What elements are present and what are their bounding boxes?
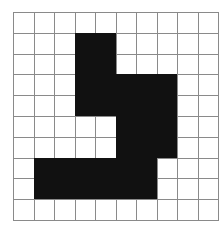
empty-cell [34, 12, 55, 33]
filled-cell [75, 54, 96, 75]
empty-cell [177, 12, 198, 33]
empty-cell [54, 199, 75, 220]
filled-cell [136, 178, 157, 199]
filled-cell [136, 116, 157, 137]
empty-cell [13, 33, 34, 54]
empty-cell [75, 116, 96, 137]
empty-cell [116, 54, 137, 75]
empty-cell [54, 33, 75, 54]
empty-cell [34, 199, 55, 220]
empty-cell [34, 33, 55, 54]
empty-cell [177, 54, 198, 75]
empty-cell [198, 74, 219, 95]
empty-cell [13, 158, 34, 179]
empty-cell [136, 33, 157, 54]
empty-cell [54, 54, 75, 75]
empty-cell [95, 12, 116, 33]
empty-cell [54, 74, 75, 95]
empty-cell [198, 54, 219, 75]
empty-cell [75, 137, 96, 158]
empty-cell [198, 199, 219, 220]
filled-cell [136, 158, 157, 179]
filled-cell [95, 33, 116, 54]
empty-cell [34, 116, 55, 137]
empty-cell [136, 12, 157, 33]
filled-cell [95, 178, 116, 199]
empty-cell [198, 158, 219, 179]
empty-cell [95, 199, 116, 220]
empty-cell [198, 178, 219, 199]
empty-cell [177, 116, 198, 137]
empty-cell [54, 137, 75, 158]
filled-cell [54, 158, 75, 179]
filled-cell [75, 95, 96, 116]
empty-cell [177, 199, 198, 220]
filled-cell [157, 95, 178, 116]
empty-cell [157, 12, 178, 33]
empty-cell [177, 74, 198, 95]
empty-cell [13, 137, 34, 158]
empty-cell [198, 12, 219, 33]
empty-cell [116, 33, 137, 54]
filled-cell [157, 116, 178, 137]
filled-cell [116, 158, 137, 179]
empty-cell [13, 54, 34, 75]
empty-cell [75, 199, 96, 220]
empty-cell [136, 199, 157, 220]
empty-cell [54, 12, 75, 33]
empty-cell [157, 33, 178, 54]
filled-cell [157, 137, 178, 158]
filled-cell [157, 74, 178, 95]
filled-cell [116, 178, 137, 199]
empty-cell [157, 54, 178, 75]
empty-cell [198, 137, 219, 158]
empty-cell [13, 95, 34, 116]
empty-cell [95, 116, 116, 137]
empty-cell [177, 33, 198, 54]
empty-cell [13, 12, 34, 33]
filled-cell [95, 158, 116, 179]
empty-cell [198, 33, 219, 54]
empty-cell [13, 199, 34, 220]
filled-cell [116, 116, 137, 137]
empty-cell [157, 158, 178, 179]
filled-cell [116, 95, 137, 116]
empty-cell [157, 178, 178, 199]
empty-cell [198, 116, 219, 137]
empty-cell [54, 116, 75, 137]
empty-cell [116, 12, 137, 33]
empty-cell [75, 12, 96, 33]
empty-cell [95, 137, 116, 158]
empty-cell [157, 199, 178, 220]
filled-cell [54, 178, 75, 199]
filled-cell [34, 158, 55, 179]
empty-cell [34, 74, 55, 95]
empty-cell [177, 137, 198, 158]
empty-cell [136, 54, 157, 75]
filled-cell [136, 95, 157, 116]
filled-cell [136, 137, 157, 158]
empty-cell [177, 158, 198, 179]
empty-cell [116, 199, 137, 220]
filled-cell [116, 137, 137, 158]
filled-cell [136, 74, 157, 95]
filled-cell [75, 178, 96, 199]
empty-cell [13, 116, 34, 137]
filled-cell [75, 158, 96, 179]
empty-cell [34, 54, 55, 75]
empty-cell [34, 95, 55, 116]
filled-cell [34, 178, 55, 199]
shape-grid [13, 12, 219, 221]
empty-cell [54, 95, 75, 116]
empty-cell [13, 178, 34, 199]
filled-cell [75, 33, 96, 54]
filled-cell [116, 74, 137, 95]
filled-cell [95, 74, 116, 95]
empty-cell [13, 74, 34, 95]
filled-cell [95, 54, 116, 75]
filled-cell [95, 95, 116, 116]
filled-cell [75, 74, 96, 95]
empty-cell [177, 95, 198, 116]
empty-cell [34, 137, 55, 158]
empty-cell [198, 95, 219, 116]
